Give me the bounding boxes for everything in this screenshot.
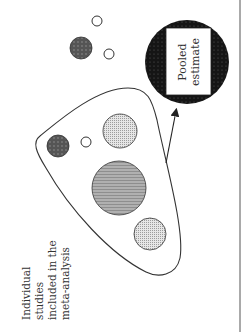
included-study-large: [92, 161, 146, 215]
excluded-study-open: [92, 16, 102, 26]
pooled-label-line-1: Pooled: [176, 43, 189, 80]
excluded-study-dark: [70, 37, 92, 59]
meta-analysis-diagram: Pooled estimate Individual studies inclu…: [0, 0, 243, 332]
excluded-studies: [70, 16, 114, 59]
included-study-open: [81, 137, 91, 147]
studies-label-line-3: included in the: [46, 240, 58, 320]
pooled-estimate: Pooled estimate: [145, 20, 229, 104]
studies-label-line-4: meta-analysis: [59, 247, 71, 320]
pooled-label-line-2: estimate: [189, 38, 202, 86]
studies-label: Individual studies included in the meta-…: [20, 240, 71, 320]
excluded-study-open: [104, 49, 114, 59]
arrow-to-pooled: [166, 111, 176, 163]
included-study-light: [134, 218, 166, 250]
studies-label-line-2: studies: [33, 282, 45, 320]
included-study-dark: [47, 135, 69, 157]
studies-label-line-1: Individual: [20, 266, 32, 320]
included-study-light: [103, 114, 137, 148]
included-studies: [47, 114, 166, 250]
